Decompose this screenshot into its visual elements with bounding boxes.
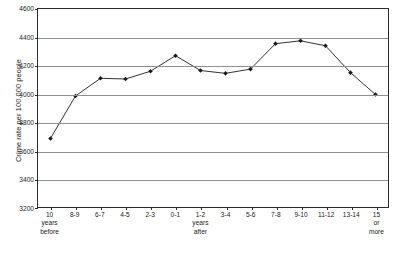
x-tick-mark-3 <box>126 207 127 210</box>
y-tick-label-4400: 4400 <box>12 33 34 40</box>
x-tick-mark-6 <box>201 207 202 210</box>
y-axis-tick-labels: 32003400360038004000420044004600 <box>12 8 34 208</box>
gridline-4200 <box>38 66 388 67</box>
plot-area <box>37 8 389 208</box>
data-point-marker <box>48 136 53 141</box>
y-tick-label-3400: 3400 <box>12 176 34 183</box>
x-tick-mark-5 <box>176 207 177 210</box>
y-tick-mark-3400 <box>35 180 38 181</box>
y-tick-mark-4200 <box>35 66 38 67</box>
y-tick-label-4600: 4600 <box>12 5 34 12</box>
data-point-marker <box>173 53 178 58</box>
y-tick-mark-3200 <box>35 208 38 209</box>
x-tick-mark-1 <box>76 207 77 210</box>
x-tick-mark-10 <box>302 207 303 210</box>
x-tick-mark-8 <box>252 207 253 210</box>
x-tick-mark-13 <box>377 207 378 210</box>
data-point-marker <box>123 77 128 82</box>
data-series-line <box>38 9 388 207</box>
x-tick-mark-11 <box>327 207 328 210</box>
data-point-marker <box>223 71 228 76</box>
x-tick-mark-4 <box>151 207 152 210</box>
y-tick-mark-4000 <box>35 95 38 96</box>
y-tick-mark-3600 <box>35 152 38 153</box>
gridline-3400 <box>38 180 388 181</box>
y-tick-label-3800: 3800 <box>12 119 34 126</box>
x-tick-mark-7 <box>227 207 228 210</box>
data-point-marker <box>148 69 153 74</box>
x-axis-tick-labels: 10yearsbefore8-96-74-52-30-11-2yearsafte… <box>37 211 389 253</box>
data-point-marker <box>298 39 303 44</box>
gridline-3800 <box>38 123 388 124</box>
y-tick-mark-4600 <box>35 9 38 10</box>
y-tick-label-4200: 4200 <box>12 62 34 69</box>
y-tick-mark-3800 <box>35 123 38 124</box>
y-tick-mark-4400 <box>35 38 38 39</box>
crime-rate-line-chart: Crime rate per 100,000 people 3200340036… <box>0 0 400 255</box>
data-point-marker <box>198 68 203 73</box>
x-tick-mark-2 <box>101 207 102 210</box>
gridline-4400 <box>38 38 388 39</box>
x-tick-mark-9 <box>277 207 278 210</box>
y-tick-label-3600: 3600 <box>12 147 34 154</box>
x-tick-label-13: 15ormore <box>353 211 399 236</box>
x-tick-mark-12 <box>352 207 353 210</box>
x-tick-mark-0 <box>51 207 52 210</box>
gridline-4000 <box>38 95 388 96</box>
y-tick-label-4000: 4000 <box>12 90 34 97</box>
gridline-3600 <box>38 152 388 153</box>
